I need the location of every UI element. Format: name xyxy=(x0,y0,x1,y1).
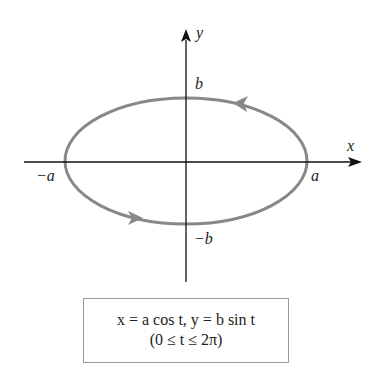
label-a: a xyxy=(311,167,319,184)
label-b: b xyxy=(195,75,203,92)
x-axis-label: x xyxy=(346,137,354,154)
equation-line-1: x = a cos t, y = b sin t xyxy=(84,310,288,330)
label-neg-b: −b xyxy=(194,230,213,247)
equation-line-2: (0 ≤ t ≤ 2π) xyxy=(84,330,288,350)
curve-arrow-top-icon xyxy=(233,96,248,112)
label-neg-a: −a xyxy=(36,167,55,184)
equation-box: x = a cos t, y = b sin t (0 ≤ t ≤ 2π) xyxy=(83,298,289,363)
y-axis-label: y xyxy=(194,24,204,42)
